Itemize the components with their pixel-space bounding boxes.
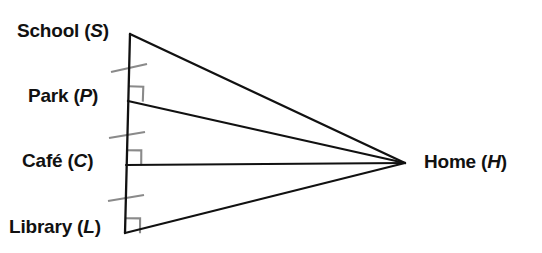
vertex-label-library-prefix: Library ( [9, 216, 83, 237]
vertex-label-school: School (S) [17, 21, 109, 40]
vertex-label-park-var: P [80, 85, 92, 106]
vertex-label-cafe-suffix: ) [87, 150, 93, 171]
vertex-label-home-prefix: Home ( [424, 151, 487, 172]
vertex-label-home-var: H [487, 151, 501, 172]
vertex-label-park-prefix: Park ( [28, 85, 80, 106]
right-angle-cafe-icon [126, 150, 141, 165]
right-angle-park-icon [128, 86, 143, 101]
segment-group [125, 34, 405, 233]
diagram-canvas: School (S) Park (P) Café (C) Library (L)… [0, 0, 542, 253]
vertex-label-cafe: Café (C) [22, 151, 93, 170]
transversal-school-library [125, 34, 130, 233]
vertex-label-cafe-prefix: Café ( [22, 150, 74, 171]
ray-school-home [130, 34, 405, 163]
vertex-label-cafe-var: C [74, 150, 88, 171]
ray-park-home [128, 101, 405, 163]
vertex-label-library-var: L [83, 216, 94, 237]
vertex-label-school-suffix: ) [103, 20, 109, 41]
vertex-label-park: Park (P) [28, 86, 98, 105]
ray-library-home [125, 163, 405, 233]
vertex-label-home: Home (H) [424, 152, 507, 171]
vertex-label-home-suffix: ) [501, 151, 507, 172]
vertex-label-library-suffix: ) [95, 216, 101, 237]
vertex-label-school-prefix: School ( [17, 20, 90, 41]
vertex-label-school-var: S [90, 20, 102, 41]
vertex-label-park-suffix: ) [92, 85, 98, 106]
ray-cafe-home [126, 163, 405, 165]
vertex-label-library: Library (L) [9, 217, 101, 236]
